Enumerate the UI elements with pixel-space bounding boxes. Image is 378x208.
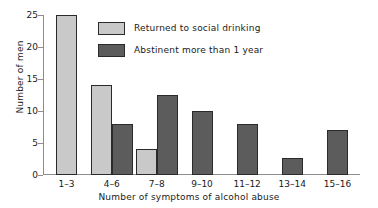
y-axis-tick-label: 0	[18, 171, 38, 180]
chart-legend: Returned to social drinking Abstinent mo…	[98, 19, 263, 63]
bar-abstinent-more-than-1-year	[112, 124, 133, 175]
y-axis-tick-label: 10	[18, 107, 38, 116]
bar-chart: Number of men 0510152025 1–34–67–89–1011…	[0, 0, 378, 208]
bar-group	[282, 15, 303, 175]
y-axis-tick-label: 5	[18, 139, 38, 148]
legend-swatch-dark-icon	[98, 44, 125, 57]
bar-abstinent-more-than-1-year	[192, 111, 213, 175]
legend-label: Abstinent more than 1 year	[134, 45, 263, 55]
x-axis-title: Number of symptoms of alcohol abuse	[0, 192, 378, 202]
bar-returned-to-social-drinking	[56, 15, 77, 175]
y-axis-tick-mark	[38, 79, 43, 80]
y-axis-tick-label: 25	[18, 11, 38, 20]
legend-item-returned-to-social-drinking: Returned to social drinking	[98, 19, 263, 37]
y-axis-tick-mark	[38, 47, 43, 48]
bar-returned-to-social-drinking	[136, 149, 157, 175]
bar-abstinent-more-than-1-year	[282, 158, 303, 175]
y-axis-tick-mark	[38, 143, 43, 144]
bar-returned-to-social-drinking	[91, 85, 112, 175]
y-axis-tick-mark	[38, 15, 43, 16]
bar-abstinent-more-than-1-year	[327, 130, 348, 175]
x-axis-tick-label: 9–10	[182, 179, 222, 190]
x-axis-tick-label: 13–14	[272, 179, 312, 190]
bar-abstinent-more-than-1-year	[157, 95, 178, 175]
legend-swatch-light-icon	[98, 22, 125, 35]
bar-group	[327, 15, 348, 175]
x-axis-tick-label: 4–6	[92, 179, 132, 190]
y-axis-tick-mark	[38, 111, 43, 112]
y-axis-tick-mark	[38, 175, 43, 176]
x-axis-tick-label: 11–12	[227, 179, 267, 190]
bar-abstinent-more-than-1-year	[237, 124, 258, 175]
y-axis-tick-labels: 0510152025	[18, 10, 38, 180]
x-axis-tick-label: 7–8	[137, 179, 177, 190]
legend-item-abstinent-more-than-1-year: Abstinent more than 1 year	[98, 41, 263, 59]
x-axis-tick-labels: 1–34–67–89–1011–1213–1415–16	[44, 179, 360, 193]
bar-group	[56, 15, 77, 175]
x-axis-tick-label: 1–3	[47, 179, 87, 190]
y-axis-tick-label: 15	[18, 75, 38, 84]
legend-label: Returned to social drinking	[134, 23, 261, 33]
x-axis-tick-label: 15–16	[317, 179, 357, 190]
y-axis-tick-label: 20	[18, 43, 38, 52]
